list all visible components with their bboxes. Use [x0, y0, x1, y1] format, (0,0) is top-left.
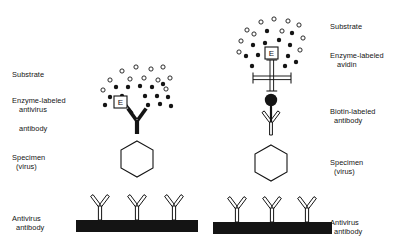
- biotin-marker-icon: [265, 94, 277, 106]
- left-enzyme-box-letter: E: [118, 98, 123, 107]
- left-substrate-cloud: [101, 65, 173, 108]
- left-solid-phase-bar: [76, 220, 198, 232]
- right-enzyme-box: E: [265, 47, 278, 59]
- left-enzyme-labeled-antibody: [126, 104, 148, 134]
- right-biotin-labeled-antibody: [262, 94, 280, 135]
- right-solid-phase-bar: [213, 222, 332, 234]
- right-enzyme-box-letter: E: [269, 49, 274, 58]
- left-capture-antibody-row: [91, 195, 184, 220]
- left-enzyme-box: E: [114, 96, 127, 108]
- right-capture-antibody-row: [228, 197, 317, 222]
- diagram-canvas: Substrate Enzyme-labeled antivirus antib…: [0, 0, 408, 248]
- diagram-artwork: E: [0, 0, 408, 248]
- right-specimen-hexagon: [255, 145, 287, 181]
- left-specimen-hexagon: [121, 141, 153, 177]
